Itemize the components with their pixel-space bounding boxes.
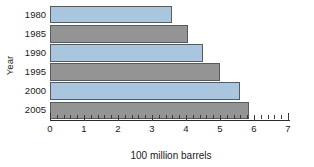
x-tick-minor xyxy=(234,115,235,119)
x-tick-major-7 xyxy=(288,115,289,121)
x-tick-minor xyxy=(125,115,126,119)
x-tick-minor xyxy=(227,115,228,119)
x-tick-minor xyxy=(138,115,139,119)
y-tick-label-1990: 1990 xyxy=(6,48,46,57)
x-axis-title-text: 100 million barrels xyxy=(130,150,211,161)
x-tick-minor xyxy=(132,115,133,119)
bar-chart: Year 198019851990199520002005 01234567 1… xyxy=(0,0,314,167)
y-tick-label-2005: 2005 xyxy=(6,105,46,114)
x-tick-minor xyxy=(193,115,194,119)
x-axis-title: 100 million barrels xyxy=(0,150,314,161)
x-tick-minor xyxy=(64,115,65,119)
x-tick-minor xyxy=(77,115,78,119)
x-tick-label-0: 0 xyxy=(40,123,60,134)
x-tick-minor xyxy=(98,115,99,119)
x-tick-minor xyxy=(172,115,173,119)
bar-1995 xyxy=(50,63,220,81)
x-tick-minor xyxy=(145,115,146,119)
x-tick-minor xyxy=(159,115,160,119)
bar-1990 xyxy=(50,44,203,62)
x-tick-minor xyxy=(213,115,214,119)
y-tick-label-1995: 1995 xyxy=(6,67,46,76)
x-tick-minor xyxy=(274,115,275,119)
x-tick-minor xyxy=(206,115,207,119)
x-tick-major-2 xyxy=(118,115,119,121)
bar-1985 xyxy=(50,25,188,43)
plot-area xyxy=(50,5,288,120)
x-tick-major-1 xyxy=(84,115,85,121)
x-tick-minor xyxy=(200,115,201,119)
x-tick-label-4: 4 xyxy=(176,123,196,134)
x-tick-minor xyxy=(247,115,248,119)
x-tick-label-2: 2 xyxy=(108,123,128,134)
x-tick-major-0 xyxy=(50,115,51,121)
y-tick-label-1980: 1980 xyxy=(6,10,46,19)
x-tick-minor xyxy=(111,115,112,119)
x-tick-major-5 xyxy=(220,115,221,121)
y-axis-tick-labels: 198019851990199520002005 xyxy=(4,0,46,120)
x-tick-label-6: 6 xyxy=(244,123,264,134)
x-tick-minor xyxy=(104,115,105,119)
x-tick-minor xyxy=(91,115,92,119)
x-tick-label-3: 3 xyxy=(142,123,162,134)
x-tick-minor xyxy=(240,115,241,119)
bar-1980 xyxy=(50,6,172,24)
x-tick-minor xyxy=(281,115,282,119)
x-tick-minor xyxy=(57,115,58,119)
bar-2000 xyxy=(50,82,240,100)
x-tick-minor xyxy=(179,115,180,119)
x-tick-major-4 xyxy=(186,115,187,121)
x-tick-major-3 xyxy=(152,115,153,121)
x-tick-major-6 xyxy=(254,115,255,121)
x-tick-label-7: 7 xyxy=(278,123,298,134)
x-tick-label-1: 1 xyxy=(74,123,94,134)
x-axis-tick-labels: 01234567 xyxy=(0,123,314,137)
x-tick-minor xyxy=(268,115,269,119)
x-tick-minor xyxy=(261,115,262,119)
x-tick-minor xyxy=(70,115,71,119)
x-tick-label-5: 5 xyxy=(210,123,230,134)
y-tick-label-2000: 2000 xyxy=(6,86,46,95)
x-tick-minor xyxy=(166,115,167,119)
y-tick-label-1985: 1985 xyxy=(6,29,46,38)
x-axis-ticks xyxy=(50,115,290,121)
